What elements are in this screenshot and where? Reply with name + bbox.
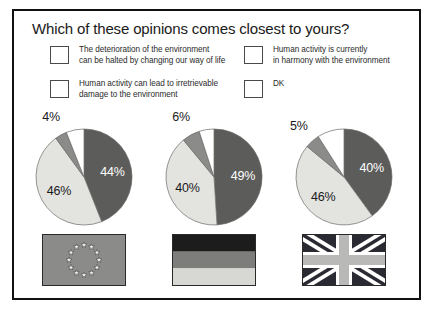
pie-chart-united-kingdom: 40%46%5% bbox=[278, 115, 410, 227]
legend-item-damage: Human activity can lead to irretrievable… bbox=[50, 79, 218, 100]
legend-label-dk: DK bbox=[273, 79, 284, 90]
legend-swatch-light-gray bbox=[50, 46, 69, 64]
legend-item-harmony: Human activity is currently in harmony w… bbox=[244, 45, 390, 66]
uk-flag-graphic bbox=[303, 235, 385, 285]
pie-united-kingdom-graphic bbox=[292, 125, 396, 229]
pie-label-harmony: 5% bbox=[290, 119, 308, 133]
infographic-frame: Which of these opinions comes closest to… bbox=[12, 9, 421, 300]
eu-flag bbox=[42, 234, 126, 286]
legend-swatch-dark-gray bbox=[50, 80, 69, 98]
legend-label-harmony: Human activity is currently in harmony w… bbox=[273, 45, 390, 66]
pie-label-damage: 40% bbox=[359, 161, 383, 175]
flag-european-union bbox=[18, 230, 150, 296]
legend-item-dk: DK bbox=[244, 79, 284, 98]
legend-item-halted: The deterioration of the environment can… bbox=[50, 45, 225, 66]
flag-germany bbox=[148, 230, 280, 296]
germany-flag bbox=[172, 234, 256, 286]
legend: The deterioration of the environment can… bbox=[32, 43, 404, 111]
uk-flag bbox=[302, 234, 386, 286]
pie-label-damage: 44% bbox=[100, 165, 124, 179]
pie-chart-germany: 49%40%6% bbox=[148, 115, 280, 227]
page-title: Which of these opinions comes closest to… bbox=[32, 20, 349, 37]
pie-label-halted: 46% bbox=[311, 190, 335, 204]
legend-swatch-medium-gray bbox=[244, 46, 263, 64]
legend-label-damage: Human activity can lead to irretrievable… bbox=[79, 79, 218, 100]
pie-label-halted: 40% bbox=[175, 181, 199, 195]
flag-united-kingdom bbox=[278, 230, 410, 296]
germany-flag-graphic bbox=[173, 235, 255, 285]
eu-flag-graphic bbox=[43, 235, 125, 285]
pie-label-damage: 49% bbox=[231, 169, 255, 183]
pie-label-harmony: 4% bbox=[42, 110, 60, 124]
pie-label-harmony: 6% bbox=[172, 110, 190, 124]
pie-label-halted: 46% bbox=[47, 184, 71, 198]
legend-label-halted: The deterioration of the environment can… bbox=[79, 45, 225, 66]
pie-chart-european-union: 44%46%4% bbox=[18, 115, 150, 227]
legend-swatch-white bbox=[244, 80, 263, 98]
